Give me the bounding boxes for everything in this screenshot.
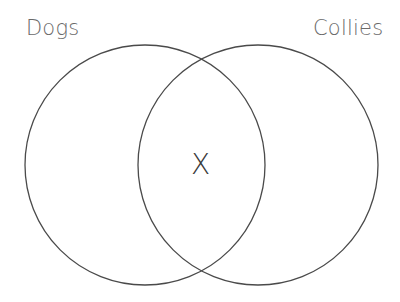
dogs-label: Dogs bbox=[26, 16, 79, 40]
collies-label: Collies bbox=[313, 16, 383, 40]
dogs-circle bbox=[25, 45, 265, 285]
intersection-mark: X bbox=[191, 148, 210, 181]
collies-circle bbox=[138, 45, 378, 285]
